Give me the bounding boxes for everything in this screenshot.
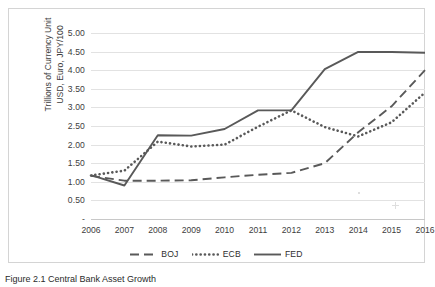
dashed-line-swatch [130,250,157,259]
y-axis-tick-label: 3.00 [68,102,85,112]
x-axis-tick-label: 2008 [148,225,167,235]
x-axis-tick-label: 2016 [415,225,434,235]
legend-item-fed[interactable]: FED [254,249,303,259]
y-axis-title: Trillions of Currency Unit USD, Euro, JP… [43,0,66,148]
y-axis-tick-label: 1.00 [68,177,85,187]
y-axis-tick-label: - [82,214,85,224]
chart-legend: BOJECBFED [9,249,424,259]
y-axis-tick-label: 4.50 [68,47,85,57]
series-line-ecb [91,93,425,176]
x-axis-tick-label: 2006 [81,225,100,235]
x-axis-tick-labels: 2006200720082009201020112012201320142015… [91,225,425,241]
x-axis-tick-label: 2010 [215,225,234,235]
x-axis-tick-label: 2011 [249,225,267,235]
chart-frame: -0.501.001.502.002.503.003.504.004.505.0… [8,8,425,263]
y-axis-tick-label: 5.00 [68,28,85,38]
scan-artifact-cross-vert [395,202,396,209]
scan-artifact-dot [358,192,360,194]
y-axis-tick-label: 3.50 [68,84,85,94]
y-axis-tick-label: 2.50 [68,121,85,131]
figure-caption: Figure 2.1 Central Bank Asset Growth [5,274,156,284]
legend-item-ecb[interactable]: ECB [192,249,241,259]
x-axis-tick-label: 2012 [282,225,301,235]
x-axis-tick-label: 2007 [115,225,134,235]
y-axis-title-line2: USD, Euro, JPY/100 [54,0,66,148]
x-axis-tick-label: 2013 [315,225,334,235]
x-axis-tick-label: 2014 [349,225,368,235]
dotted-line-swatch [192,250,219,259]
series-line-boj [91,70,425,180]
series-layer [91,33,425,219]
legend-label: ECB [223,249,241,259]
y-axis-tick-label: 4.00 [68,65,85,75]
plot-area [91,33,425,219]
y-axis-tick-label: 1.50 [68,158,85,168]
solid-line-swatch [254,250,281,259]
x-axis-tick-label: 2009 [182,225,201,235]
y-axis-title-line1: Trillions of Currency Unit [43,0,55,148]
y-axis-tick-label: 0.50 [68,195,85,205]
x-axis-line [91,219,425,220]
legend-label: BOJ [161,249,178,259]
y-axis-tick-label: 2.00 [68,140,85,150]
legend-item-boj[interactable]: BOJ [130,249,178,259]
x-axis-tick-label: 2015 [382,225,401,235]
legend-label: FED [285,249,303,259]
